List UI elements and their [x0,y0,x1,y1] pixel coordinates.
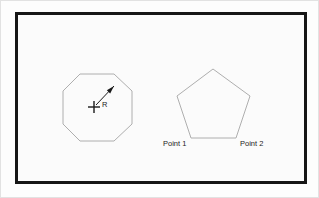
page-canvas: R Point 1 Point 2 [0,0,319,198]
point-1-label: Point 1 [163,139,186,148]
pentagon-shape[interactable] [177,69,250,138]
radius-label: R [102,100,108,109]
point-2-label: Point 2 [240,139,263,148]
geometry-canvas: R Point 1 Point 2 [1,1,319,198]
